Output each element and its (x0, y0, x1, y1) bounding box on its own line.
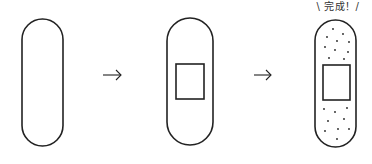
arrow-icon (254, 70, 271, 80)
gauze-pad (176, 64, 204, 99)
gauze-pad (323, 65, 350, 100)
completion-caption: \ 完成！/ (308, 0, 368, 13)
diagram-canvas (0, 0, 372, 164)
arrow-icon (103, 70, 121, 80)
plain-bandage-shape (22, 19, 63, 146)
pad-bandage-shape (167, 18, 213, 145)
bandage-steps-diagram: \ 完成！/ (0, 0, 372, 164)
perforation-dots (323, 28, 350, 140)
